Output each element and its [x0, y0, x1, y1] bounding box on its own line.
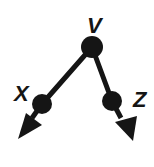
node-z: [102, 91, 122, 111]
diagram-svg: V X Z: [0, 0, 154, 167]
node-v: [81, 36, 103, 58]
arrowhead-z-icon: [115, 116, 137, 141]
arrowhead-x-icon: [18, 113, 42, 139]
label-x: X: [12, 81, 30, 106]
edge-v-x: [42, 47, 92, 104]
label-z: Z: [132, 87, 148, 112]
node-x: [32, 94, 52, 114]
label-v: V: [87, 13, 104, 38]
tree-diagram: V X Z: [0, 0, 154, 167]
